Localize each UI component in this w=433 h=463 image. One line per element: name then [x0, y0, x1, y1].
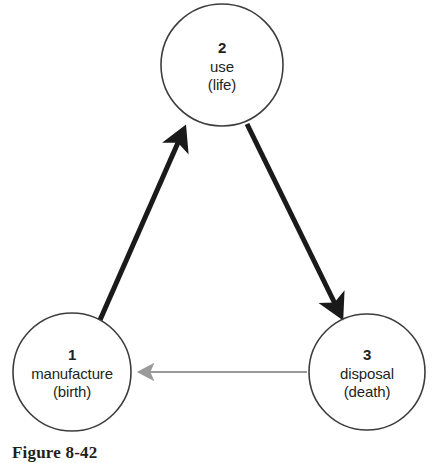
arrow-manufacture-to-use: [100, 129, 184, 320]
node-name-disposal: disposal: [340, 364, 394, 382]
node-label-disposal: 3 disposal (death): [340, 345, 394, 401]
node-label-manufacture: 1 manufacture (birth): [31, 345, 113, 401]
node-number-manufacture: 1: [31, 345, 113, 365]
node-sub-disposal: (death): [340, 383, 394, 401]
node-number-use: 2: [208, 38, 236, 58]
node-name-use: use: [208, 57, 236, 75]
node-name-manufacture: manufacture: [31, 364, 113, 382]
arrow-use-to-disposal: [247, 124, 341, 316]
node-label-use: 2 use (life): [208, 38, 236, 94]
figure-caption: Figure 8-42: [12, 443, 97, 463]
node-sub-manufacture: (birth): [31, 383, 113, 401]
node-number-disposal: 3: [340, 345, 394, 365]
node-sub-use: (life): [208, 76, 236, 94]
